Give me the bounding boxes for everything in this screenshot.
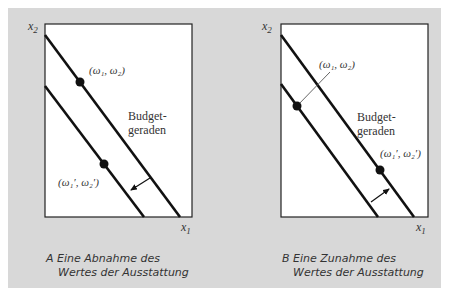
panel-a-endowment-point (76, 78, 85, 87)
panel-a-y-axis-label: x2 (27, 19, 38, 35)
panel-b-endowment-label: (ω₁, ω₂) (319, 58, 355, 71)
panel-a-endowment-label: (ω₁, ω₂) (89, 64, 125, 77)
panel-b-y-axis-label: x2 (261, 19, 272, 35)
panel-b-caption-line2: Wertes der Ausstattung (293, 266, 424, 279)
panel-b-endowment-point (293, 102, 302, 111)
panel-b-new-endowment-label: (ω₁′, ω₂′) (380, 147, 421, 160)
panel-b-new-endowment-point (376, 166, 385, 175)
panel-b-plot-area (281, 24, 428, 217)
budget-line-diagram: x2 x1 (ω₁, ω₂) (ω₁′, ω₂′) Budget- gerade… (0, 0, 451, 295)
panel-a-budget-label-line1: Budget- (128, 109, 167, 123)
panel-b-budget-label-line1: Budget- (357, 110, 396, 124)
panel-a-budget-label-line2: geraden (128, 123, 166, 137)
panel-a: x2 x1 (ω₁, ω₂) (ω₁′, ω₂′) Budget- gerade… (27, 19, 192, 279)
panel-a-x-axis-label: x1 (180, 220, 191, 236)
panel-b-x-axis-label: x1 (415, 220, 426, 236)
panel-b-caption-line1: B Eine Zunahme des (282, 252, 396, 265)
panel-a-caption-line2: Wertes der Ausstattung (58, 266, 189, 279)
panel-a-caption-line1: A Eine Abnahme des (45, 252, 160, 265)
panel-a-plot-area (45, 24, 192, 217)
panel-a-new-endowment-point (100, 160, 109, 169)
panel-a-new-endowment-label: (ω₁′, ω₂′) (58, 176, 99, 189)
panel-b: x2 x1 (ω₁, ω₂) (ω₁′, ω₂′) Budget- gerade… (261, 19, 428, 279)
panel-b-budget-label-line2: geraden (357, 124, 395, 138)
